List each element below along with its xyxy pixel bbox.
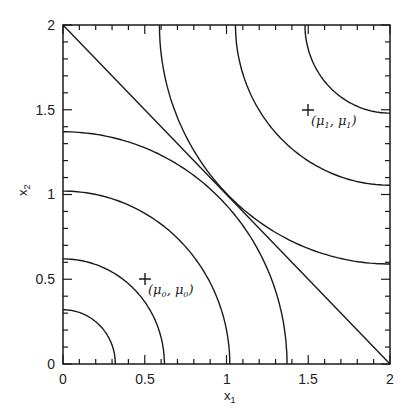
- marker-mu1: (μ1, μ1): [302, 104, 357, 130]
- y-tick-2: 2: [47, 17, 55, 33]
- x-tick-1: 1: [223, 371, 231, 387]
- y-tick-1.5: 1.5: [36, 102, 56, 118]
- x-tick-labels: 0 0.5 1 1.5 2: [59, 371, 394, 387]
- y-tick-0.5: 0.5: [36, 271, 56, 287]
- y-tick-1: 1: [47, 186, 55, 202]
- x-axis-label: x1: [224, 388, 236, 405]
- marker-mu1-label: (μ1, μ1): [311, 113, 357, 130]
- x-tick-0.5: 0.5: [135, 371, 155, 387]
- decision-boundary-line: [63, 25, 390, 364]
- y-tick-labels: 0 0.5 1 1.5 2: [36, 17, 56, 372]
- contour-line: [63, 132, 287, 364]
- contours-class-1: [160, 25, 391, 264]
- marker-mu0: (μ0, μ0): [139, 273, 194, 299]
- x-tick-1.5: 1.5: [298, 371, 318, 387]
- x-tick-2: 2: [386, 371, 394, 387]
- y-axis-label: x2: [15, 184, 32, 196]
- contours-class-0: [63, 132, 287, 364]
- y-tick-0: 0: [47, 356, 55, 372]
- contour-chart: 0 0.5 1 1.5 2 0 0.5 1 1.5 2 x1 x2 (μ0, μ…: [0, 0, 411, 416]
- svg-text:x2: x2: [15, 184, 32, 196]
- contour-line: [305, 25, 390, 113]
- contour-line: [63, 310, 115, 364]
- contour-line: [160, 25, 391, 264]
- marker-mu0-label: (μ0, μ0): [148, 282, 194, 299]
- x-tick-0: 0: [59, 371, 67, 387]
- contour-line: [63, 191, 230, 364]
- contour-line: [236, 25, 391, 185]
